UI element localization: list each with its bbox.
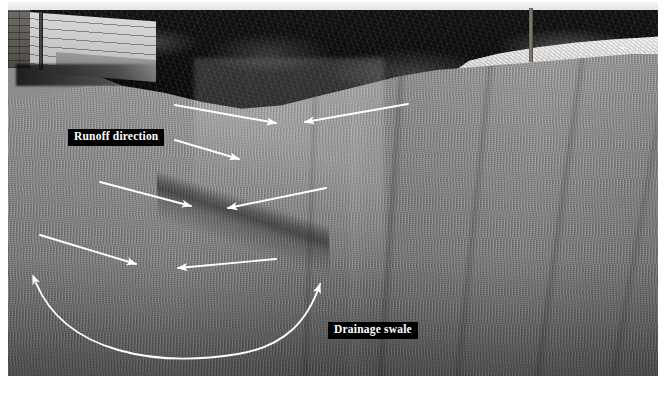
swale-bank-highlight xyxy=(194,58,384,288)
figure-root: Runoff direction Drainage swale xyxy=(0,0,670,394)
utility-pole xyxy=(529,8,533,62)
downspout xyxy=(39,12,43,70)
house-shadow xyxy=(16,64,162,86)
label-drainage-swale: Drainage swale xyxy=(328,322,418,339)
label-runoff-direction: Runoff direction xyxy=(68,129,164,146)
house xyxy=(8,6,160,82)
house-brick-corner xyxy=(8,10,30,68)
photograph: Runoff direction Drainage swale xyxy=(8,2,658,376)
